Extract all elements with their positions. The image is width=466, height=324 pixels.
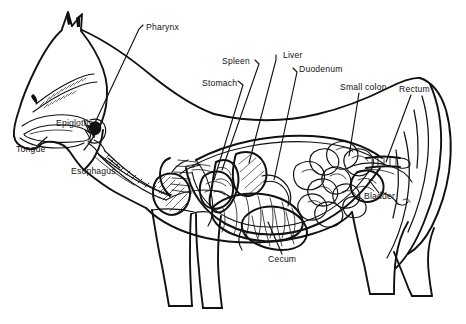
label-tongue: Tongue bbox=[16, 145, 45, 154]
label-duodenum: Duodenum bbox=[299, 65, 343, 74]
label-bladder: Bladder bbox=[364, 192, 395, 201]
horse-anatomy-illustration bbox=[0, 0, 466, 324]
label-rectum: Rectum bbox=[399, 85, 430, 94]
label-small-colon: Small colon bbox=[340, 83, 387, 92]
leader-rectum bbox=[386, 95, 411, 162]
leader-stomach bbox=[214, 81, 243, 180]
label-stomach: Stomach bbox=[202, 79, 237, 88]
label-cecum: Cecum bbox=[268, 255, 296, 264]
label-esophagus: Esophagus bbox=[71, 167, 116, 176]
anatomy-diagram-figure: Pharynx Spleen Liver Duodenum Stomach Sm… bbox=[0, 0, 466, 324]
label-liver: Liver bbox=[283, 51, 303, 60]
leader-liver bbox=[249, 55, 276, 163]
label-pharynx: Pharynx bbox=[146, 23, 179, 32]
leader-duodenum bbox=[274, 68, 297, 180]
head-internal-structures bbox=[20, 74, 106, 155]
label-epiglottis: Epiglottis bbox=[56, 119, 93, 128]
label-spleen: Spleen bbox=[222, 57, 250, 66]
